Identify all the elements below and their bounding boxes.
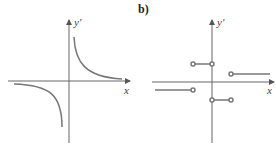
- x-axis-label: x: [123, 84, 129, 96]
- panel-label: b): [138, 2, 149, 16]
- x-axis-label: x: [266, 84, 272, 96]
- panel-b: b) y' x: [138, 2, 274, 143]
- hyperbola-branch-left: [14, 84, 62, 127]
- y-axis-label: y': [73, 16, 82, 28]
- hyperbola-branch-right: [74, 37, 122, 79]
- y-axis-label: y': [216, 16, 225, 28]
- panel-a: y' x: [8, 16, 130, 143]
- figure: y' x b) y' x: [0, 0, 276, 157]
